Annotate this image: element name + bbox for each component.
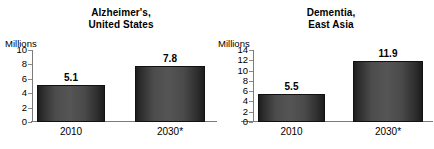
chart-panel-alzheimers-united-states: Alzheimer's, United States Millions 0 2 … [0, 0, 222, 149]
y-tick-label-right-0: 0 [243, 117, 248, 127]
bar-right-2030[interactable] [353, 61, 423, 122]
dual-bar-chart-figure: Alzheimer's, United States Millions 0 2 … [0, 0, 434, 149]
chart-panel-dementia-east-asia: Dementia, East Asia Millions 0 2 4 6 [222, 0, 434, 149]
y-tick-label-left-2: 2 [22, 103, 27, 113]
bar-value-right-2010: 5.5 [285, 81, 299, 92]
chart-title-dementia: Dementia, East Asia [268, 7, 394, 31]
y-tick-label-right-10: 10 [237, 66, 248, 76]
y-tick-label-left-10: 10 [16, 45, 27, 55]
x-tick-label-right-2030: 2030* [375, 126, 401, 137]
bar-slot-left-2010: 5.1 2010 [37, 85, 105, 122]
bar-slot-left-2030: 7.8 2030* [135, 66, 205, 122]
bar-value-left-2030: 7.8 [163, 53, 177, 64]
bar-slot-right-2030: 11.9 2030* [353, 61, 423, 122]
plot-area-right: 0 2 4 6 8 10 1 [253, 50, 431, 122]
y-tick-label-right-8: 8 [243, 76, 248, 86]
x-tick-label-left-2030: 2030* [157, 126, 183, 137]
y-axis-line-left [32, 50, 33, 122]
bar-value-right-2030: 11.9 [379, 48, 398, 59]
plot-area-left: 0 2 4 6 8 10 [32, 50, 216, 122]
y-tick-label-left-8: 8 [22, 60, 27, 70]
chart-title-alzheimers: Alzheimer's, United States [58, 7, 184, 31]
y-tick-label-left-6: 6 [22, 74, 27, 84]
x-tick-label-right-2010: 2010 [280, 126, 302, 137]
y-axis-line-right [253, 50, 254, 122]
y-tick-label-left-4: 4 [22, 88, 27, 98]
y-tick-label-left-0: 0 [22, 117, 27, 127]
y-tick-label-right-2: 2 [243, 107, 248, 117]
bar-left-2010[interactable] [37, 85, 105, 122]
y-tick-label-right-6: 6 [243, 86, 248, 96]
x-tick-label-left-2010: 2010 [60, 126, 82, 137]
bar-slot-right-2010: 5.5 2010 [258, 94, 325, 122]
y-tick-label-right-12: 12 [237, 56, 248, 66]
y-tick-label-right-14: 14 [237, 45, 248, 55]
bar-right-2010[interactable] [258, 94, 325, 122]
bar-left-2030[interactable] [135, 66, 205, 122]
y-tick-label-right-4: 4 [243, 97, 248, 107]
bar-value-left-2010: 5.1 [64, 72, 78, 83]
